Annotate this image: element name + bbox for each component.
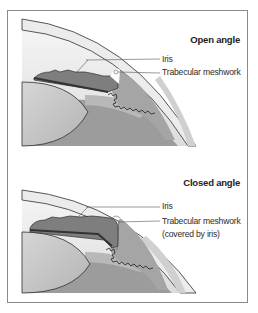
label-iris: Iris <box>162 201 173 212</box>
panel-title: Open angle <box>190 34 240 45</box>
panel-title: Closed angle <box>183 177 240 188</box>
label-trabecular-meshwork: Trabecular meshwork <box>162 216 241 227</box>
panel-closed-angle: Closed angle Iris Trabecular meshwork (c… <box>0 150 258 300</box>
label-trabecular-meshwork: Trabecular meshwork <box>162 67 241 78</box>
label-iris: Iris <box>162 54 173 65</box>
panel-open-angle: Open angle Iris Trabecular meshwork <box>0 0 258 150</box>
label-covered-by-iris: (covered by iris) <box>162 229 220 240</box>
